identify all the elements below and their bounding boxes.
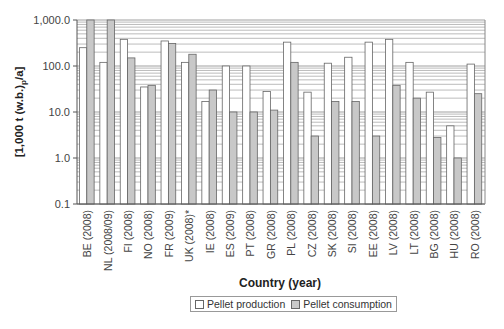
bar-consumption <box>393 85 400 204</box>
bar-production <box>181 62 188 204</box>
y-tick-label: 1,000.0 <box>33 14 70 26</box>
bar-consumption <box>209 90 216 204</box>
y-tick-label: 100.0 <box>42 60 70 72</box>
x-tick-label: NO (2008) <box>142 210 154 259</box>
bar-production <box>324 63 331 204</box>
bar-consumption <box>291 62 298 204</box>
bar-consumption <box>168 43 175 204</box>
bar-production <box>345 57 352 204</box>
x-tick-label: RO (2008) <box>469 210 481 259</box>
legend-item-production: Pellet production <box>195 298 285 310</box>
bar-consumption <box>413 98 420 204</box>
bar-production <box>222 66 229 204</box>
bar-consumption <box>128 58 135 204</box>
x-tick-label: PL (2008) <box>285 210 297 256</box>
y-tick-label: 10.0 <box>49 106 70 118</box>
bar-production <box>467 64 474 204</box>
bar-consumption <box>189 54 196 204</box>
bar-production <box>263 91 270 204</box>
x-tick-label: LT (2008) <box>408 210 420 255</box>
bar-consumption <box>332 101 339 204</box>
bar-consumption <box>352 101 359 204</box>
gridlines <box>77 20 485 204</box>
x-tick-label: IE (2008) <box>204 210 216 253</box>
y-tick-labels: 0.11.010.0100.01,000.0 <box>33 14 70 210</box>
x-tick-label: LV (2008) <box>387 210 399 255</box>
y-tick-label: 1.0 <box>55 152 70 164</box>
bar-consumption <box>434 137 441 204</box>
bar-consumption <box>474 94 481 204</box>
bar-production <box>406 62 413 204</box>
x-tick-label: PT (2008) <box>244 210 256 257</box>
consumption-swatch-icon <box>291 300 300 309</box>
x-tick-label: GR (2008) <box>265 210 277 259</box>
bar-production <box>202 101 209 204</box>
x-tick-label: HU (2008) <box>448 210 460 258</box>
x-axis-title: Country (year) <box>0 276 504 290</box>
bar-consumption <box>270 110 277 204</box>
x-tick-label: CZ (2008) <box>306 210 318 257</box>
y-tick-label: 0.1 <box>55 198 70 210</box>
x-tick-label: EE (2008) <box>367 210 379 257</box>
bar-production <box>161 41 168 204</box>
legend-label-production: Pellet production <box>207 298 285 310</box>
bar-consumption <box>230 112 237 204</box>
bar-production <box>304 92 311 204</box>
x-tick-label: SI (2008) <box>346 210 358 253</box>
x-tick-label: BE (2008) <box>81 210 93 257</box>
bar-production <box>283 42 290 204</box>
x-tick-label: ES (2009) <box>224 210 236 257</box>
x-tick-label: SK (2008) <box>326 210 338 257</box>
bar-consumption <box>87 20 94 204</box>
bar-consumption <box>372 136 379 204</box>
x-tick-label: NL (2008/09) <box>102 210 114 271</box>
bar-production <box>243 66 250 204</box>
x-tick-label: FR (2009) <box>163 210 175 257</box>
y-axis-title: [1,000 t (w.b.)p/a] <box>13 66 28 157</box>
legend-label-consumption: Pellet consumption <box>303 298 392 310</box>
bar-consumption <box>250 112 257 204</box>
bar-production <box>141 87 148 204</box>
legend-item-consumption: Pellet consumption <box>291 298 392 310</box>
bar-consumption <box>107 20 114 204</box>
bar-consumption <box>311 136 318 204</box>
x-tick-label: BG (2008) <box>428 210 440 258</box>
bar-production <box>79 48 86 204</box>
bar-production <box>365 42 372 204</box>
bar-production <box>447 126 454 204</box>
bar-production <box>100 62 107 204</box>
bar-consumption <box>148 85 155 204</box>
bar-production <box>385 39 392 204</box>
x-tick-label: UK (2008)* <box>183 210 195 262</box>
legend: Pellet production Pellet consumption <box>190 296 397 312</box>
x-tick-label: FI (2008) <box>122 210 134 253</box>
x-tick-labels: BE (2008)NL (2008/09)FI (2008)NO (2008)F… <box>81 210 481 271</box>
production-swatch-icon <box>195 300 204 309</box>
bar-production <box>120 39 127 204</box>
bar-production <box>426 92 433 204</box>
bar-consumption <box>454 158 461 204</box>
